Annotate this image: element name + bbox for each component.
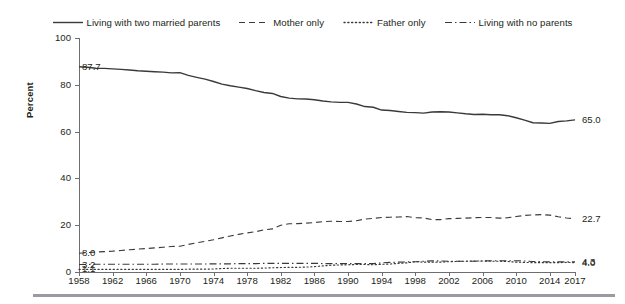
- legend-item-living-with-two-married-parents[interactable]: Living with two married parents: [53, 18, 221, 28]
- series-line-living-with-no-parents: [79, 261, 575, 265]
- y-tick-label: 40: [45, 173, 71, 183]
- x-tick-label: 2017: [558, 276, 592, 286]
- start-value-label: 1.1: [82, 264, 95, 274]
- legend-label: Living with no parents: [479, 18, 573, 28]
- y-tick-mark: [75, 225, 79, 226]
- legend-item-father-only[interactable]: Father only: [343, 18, 426, 28]
- series-line-mother-only: [79, 215, 575, 254]
- legend-label: Living with two married parents: [87, 18, 221, 28]
- x-tick-label: 1982: [264, 276, 298, 286]
- footer-divider: [33, 294, 615, 297]
- y-tick-label: 20: [45, 220, 71, 230]
- solid-line-icon: [53, 18, 83, 27]
- x-tick-label: 2002: [432, 276, 466, 286]
- x-tick-label: 1990: [331, 276, 365, 286]
- legend-label: Mother only: [273, 18, 324, 28]
- start-value-label: 8.0: [82, 248, 95, 258]
- x-tick-label: 1998: [398, 276, 432, 286]
- y-axis-title: Percent: [24, 82, 35, 118]
- series-line-living-with-two-married-parents: [79, 67, 575, 124]
- x-tick-label: 2010: [499, 276, 533, 286]
- y-tick-label: 100: [45, 33, 71, 43]
- x-tick-label: 1974: [197, 276, 231, 286]
- x-tick-label: 1986: [297, 276, 331, 286]
- x-tick-label: 1978: [230, 276, 264, 286]
- plot-area: [79, 38, 575, 272]
- x-tick-label: 1994: [365, 276, 399, 286]
- x-tick-label: 1958: [62, 276, 96, 286]
- series-line-father-only: [79, 261, 575, 269]
- end-value-label: 65.0: [582, 115, 601, 125]
- series-layer: [79, 38, 575, 272]
- dashed-line-icon: [239, 18, 269, 27]
- y-tick-mark: [75, 85, 79, 86]
- y-tick-mark: [75, 132, 79, 133]
- legend-label: Father only: [377, 18, 426, 28]
- end-value-label: 22.7: [582, 214, 601, 224]
- x-tick-label: 1970: [163, 276, 197, 286]
- dash-dot-line-icon: [445, 18, 475, 27]
- legend-item-mother-only[interactable]: Mother only: [239, 18, 324, 28]
- y-tick-label: 80: [45, 80, 71, 90]
- x-axis-line: [79, 272, 575, 273]
- x-tick-label: 1962: [96, 276, 130, 286]
- x-tick-label: 2006: [466, 276, 500, 286]
- y-tick-mark: [75, 38, 79, 39]
- y-tick-label: 60: [45, 127, 71, 137]
- end-value-label: 4.0: [582, 258, 595, 268]
- line-chart: Living with two married parents Mother o…: [0, 0, 625, 304]
- start-value-label: 87.7: [82, 62, 101, 72]
- dotted-line-icon: [343, 18, 373, 27]
- chart-legend: Living with two married parents Mother o…: [0, 18, 625, 28]
- y-tick-mark: [75, 178, 79, 179]
- x-tick-label: 1966: [129, 276, 163, 286]
- legend-item-living-with-no-parents[interactable]: Living with no parents: [445, 18, 573, 28]
